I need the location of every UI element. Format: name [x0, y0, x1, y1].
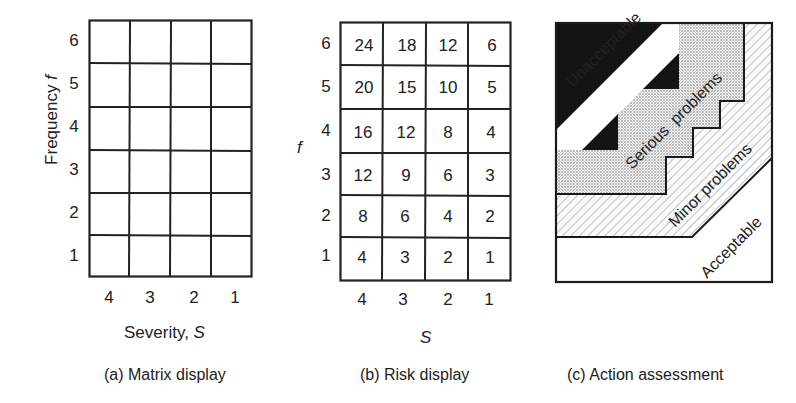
panel-c-zone-diagram	[0, 0, 796, 403]
panel-c-caption: (c) Action assessment	[567, 366, 724, 384]
